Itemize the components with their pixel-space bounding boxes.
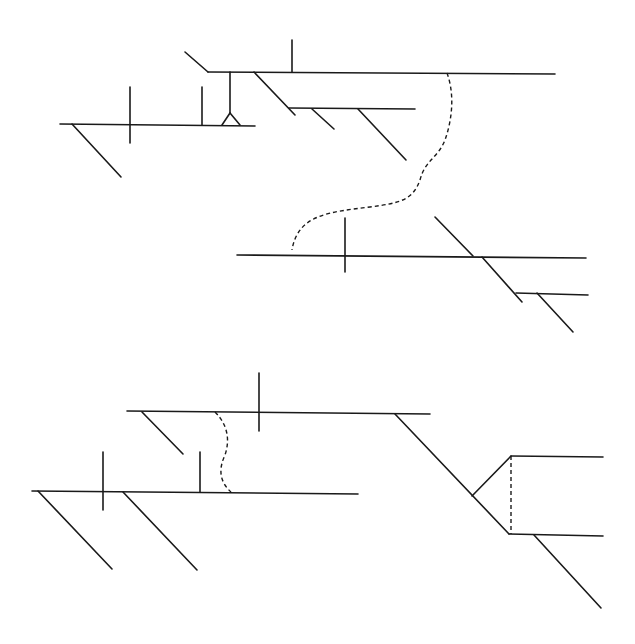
diagram-line — [208, 72, 555, 74]
diagram-line — [482, 257, 522, 302]
diagram-line — [38, 491, 112, 569]
diagram-line — [289, 108, 415, 109]
diagram-line — [312, 109, 334, 129]
diagram-line — [32, 491, 358, 494]
diagram-canvas — [0, 0, 635, 644]
diagram-line — [123, 492, 197, 570]
diagram-line — [511, 456, 603, 457]
diagram-line — [237, 255, 586, 258]
middle-diagram — [237, 217, 588, 332]
diagram-line — [222, 113, 230, 125]
diagram-line — [127, 411, 430, 414]
dashed-connector — [292, 73, 452, 250]
diagram-line — [60, 124, 255, 126]
dashed-connector — [215, 412, 231, 492]
lower-diagram — [32, 373, 603, 608]
diagram-line — [472, 456, 511, 496]
upper-diagram — [60, 40, 555, 250]
diagram-line — [516, 293, 588, 295]
diagram-line — [537, 293, 573, 332]
diagram-line — [358, 109, 406, 160]
diagram-line — [534, 535, 601, 608]
diagram-line — [72, 124, 121, 177]
diagram-line — [230, 113, 240, 125]
diagram-line — [395, 414, 509, 534]
diagram-line — [185, 52, 208, 72]
diagram-line — [509, 534, 603, 536]
diagram-line — [435, 217, 473, 256]
diagram-line — [142, 412, 183, 454]
